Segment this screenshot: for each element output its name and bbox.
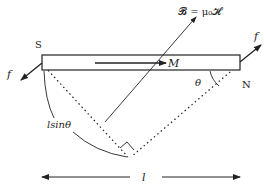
field-label: 𝓑 = μ₀𝓗 bbox=[178, 6, 224, 17]
south-pole-label: S bbox=[35, 39, 42, 50]
magnetization-label: M bbox=[167, 57, 180, 70]
right-angle-marker bbox=[120, 142, 134, 150]
magnet-diagram: 𝓑 = μ₀𝓗 M S N f f θ lsinθ l bbox=[0, 0, 264, 191]
force-arrow-left bbox=[21, 63, 42, 80]
dotted-line-left bbox=[45, 67, 128, 157]
angle-label: θ bbox=[195, 77, 201, 88]
north-pole-label: N bbox=[242, 79, 251, 90]
force-arrow-right bbox=[240, 45, 261, 62]
force-label-left: f bbox=[6, 68, 13, 81]
length-label: l bbox=[142, 171, 146, 184]
moment-arm-arc-top bbox=[44, 71, 54, 118]
moment-arm-arc-bottom bbox=[73, 132, 127, 157]
moment-arm-label: lsinθ bbox=[47, 119, 71, 130]
dotted-line-right bbox=[131, 66, 237, 157]
force-label-right: f bbox=[253, 30, 260, 43]
angle-arc bbox=[210, 71, 219, 86]
